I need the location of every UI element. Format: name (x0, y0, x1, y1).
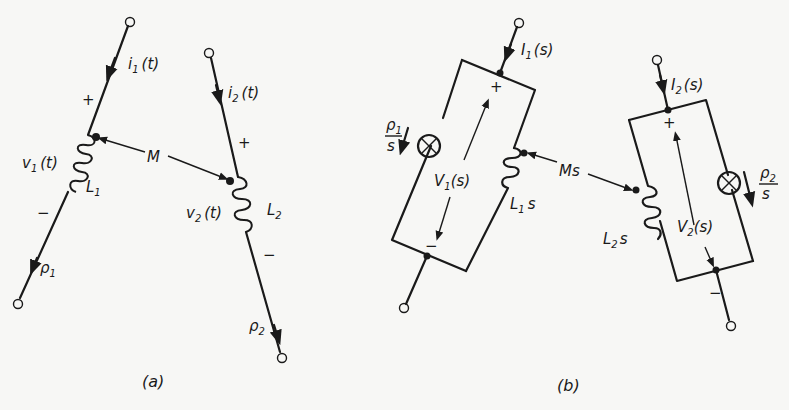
label-Ms: Ms (559, 162, 580, 180)
label-b-plus-2: + (663, 114, 676, 132)
box-b2-right-lower (732, 190, 753, 261)
wire-a-left-upper (88, 26, 128, 135)
arrow-V1-down (438, 197, 450, 236)
label-V2: V2(s) (677, 218, 713, 238)
label-L2: L2 (267, 201, 282, 221)
terminal-top-right (205, 49, 214, 58)
label-a-minus-2: − (263, 246, 276, 264)
coupled-inductor-diagram: i1(t) i2(t) + + v1(t) L1 M v2(t) L2 − − … (0, 0, 789, 410)
box-b2-top (629, 100, 728, 175)
terminal-b-top-right (653, 56, 662, 65)
panel-a: i1(t) i2(t) + + v1(t) L1 M v2(t) L2 − − … (14, 18, 287, 392)
label-a-minus-1: − (37, 204, 50, 222)
caption-b: (b) (557, 376, 580, 395)
panel-b: I1(s) I2(s) + + V1(s) V2(s) L1s L2s Ms ρ… (385, 19, 778, 396)
node-b1-top (497, 70, 504, 77)
terminal-b-bottom-right (727, 322, 736, 331)
dot-L2s (633, 187, 640, 194)
arrow-V2-up (676, 136, 694, 225)
arrow-M-right (168, 156, 224, 178)
label-p1-num: ρ1 (386, 116, 402, 136)
arrow-p2-s (744, 172, 751, 200)
label-b-plus-1: + (490, 78, 503, 96)
label-p1: ρ1 (40, 259, 56, 279)
arrow-V1-up (464, 103, 487, 160)
label-i1: i1(t) (128, 55, 159, 75)
label-p2: ρ2 (249, 317, 265, 337)
label-p2-num: ρ2 (760, 164, 776, 184)
label-L2s: L2s (603, 230, 628, 250)
arrow-Ms-right (588, 174, 629, 189)
label-L1s: L1s (510, 195, 536, 215)
arrow-V2-down (705, 247, 712, 263)
label-v1: v1(t) (22, 154, 58, 174)
label-I1: I1(s) (521, 41, 553, 61)
label-v2: v2(t) (186, 204, 222, 224)
arrow-M-left (102, 139, 145, 152)
node-b2-top (665, 107, 672, 114)
label-p2-den: s (762, 185, 770, 203)
arrow-I2 (660, 75, 663, 88)
label-V1: V1(s) (434, 172, 470, 192)
inductor-L2s (629, 120, 661, 239)
caption-a: (a) (142, 372, 164, 391)
box-b1-left-upper (443, 60, 462, 118)
dot-L1s (521, 150, 528, 157)
label-L1: L1 (86, 178, 101, 198)
label-p1-den: s (387, 137, 395, 155)
terminal-b-top-left (515, 19, 524, 28)
label-a-plus-1: + (82, 91, 95, 109)
dot-L1 (92, 133, 100, 141)
dot-L2 (226, 177, 234, 185)
label-i2: i2(t) (228, 84, 259, 104)
terminal-bottom-right (278, 354, 287, 363)
arrow-p1-s (402, 128, 408, 148)
label-b-minus-1: − (425, 237, 438, 255)
wire-b-bottom-left (406, 256, 427, 304)
label-M: M (147, 148, 160, 166)
terminal-bottom-left (14, 300, 23, 309)
arrow-Ms-left (531, 154, 557, 162)
label-a-plus-2: + (238, 134, 251, 152)
wire-a-right-upper (211, 58, 238, 177)
terminal-top-left (126, 18, 135, 27)
label-b-minus-2: − (709, 284, 722, 302)
terminal-b-bottom-left (400, 304, 409, 313)
label-I2: I2(s) (671, 76, 703, 96)
inductor-L2 (233, 177, 252, 232)
